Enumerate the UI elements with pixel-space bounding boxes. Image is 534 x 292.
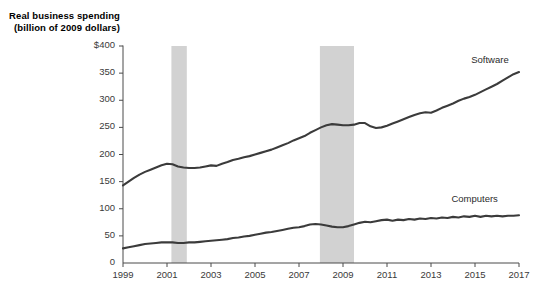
- x-tick-label: 2005: [230, 269, 280, 280]
- x-tick-label: 2003: [186, 269, 236, 280]
- x-tick-label: 2017: [494, 269, 534, 280]
- y-tick-label: 250: [59, 120, 115, 131]
- x-tick-label: 2015: [450, 269, 500, 280]
- y-tick-label: 200: [59, 148, 115, 159]
- x-tick-label: 2007: [274, 269, 324, 280]
- shaded-region-recession-2008: [320, 46, 354, 263]
- y-tick-label: 350: [59, 66, 115, 77]
- x-tick-label: 2001: [142, 269, 192, 280]
- x-tick-label: 1999: [98, 269, 148, 280]
- x-tick-label: 2009: [318, 269, 368, 280]
- y-tick-label: $400: [59, 39, 115, 50]
- shaded-region-recession-2001: [171, 46, 186, 263]
- y-tick-label: 100: [59, 202, 115, 213]
- x-tick-label: 2013: [406, 269, 456, 280]
- series-label-software: Software: [471, 54, 509, 65]
- y-tick-label: 300: [59, 93, 115, 104]
- x-tick-label: 2011: [362, 269, 412, 280]
- series-label-computers: Computers: [451, 193, 497, 204]
- y-tick-label: 50: [59, 229, 115, 240]
- y-tick-label: 0: [59, 256, 115, 267]
- y-tick-label: 150: [59, 175, 115, 186]
- chart-container: Real business spending (billion of 2009 …: [0, 0, 534, 292]
